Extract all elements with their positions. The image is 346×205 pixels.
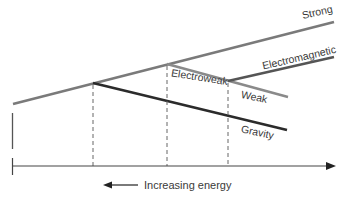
energy-axis-arrowhead-icon	[326, 162, 336, 170]
increasing-energy-arrow-icon	[103, 182, 112, 189]
increasing-energy-label: Increasing energy	[144, 179, 232, 191]
label-strong: Strong	[301, 2, 334, 21]
label-electroweak: Electroweak	[170, 66, 229, 87]
label-electromagnetic: Electromagnetic	[261, 43, 337, 72]
force-unification-diagram: Strong Electromagnetic Electroweak Weak …	[0, 0, 346, 205]
